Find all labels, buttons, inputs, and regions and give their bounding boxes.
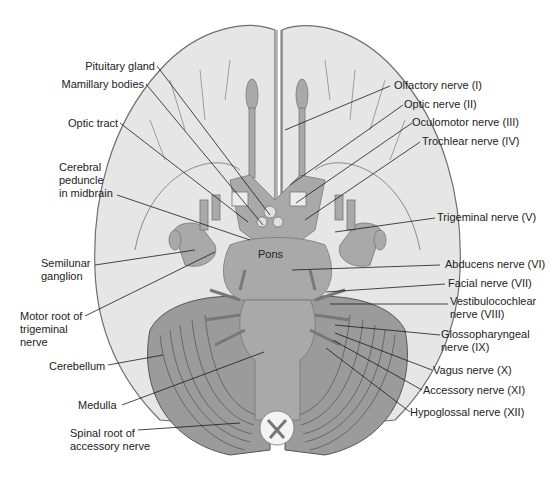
label-medulla: Medulla — [78, 399, 117, 412]
label-semilunar-ganglion: Semilunar ganglion — [41, 257, 91, 283]
label-hypoglossal-nerve: Hypoglossal nerve (XII) — [410, 406, 524, 419]
label-mamillary-bodies: Mamillary bodies — [40, 78, 144, 91]
label-cerebellum: Cerebellum — [49, 360, 105, 373]
label-optic-tract: Optic tract — [68, 117, 118, 130]
label-spinal-root-accessory: Spinal root of accessory nerve — [70, 427, 150, 453]
label-trigeminal-nerve: Trigeminal nerve (V) — [437, 211, 536, 224]
label-cerebral-peduncle: Cerebral peduncle in midbrain — [59, 161, 113, 200]
pons-label: Pons — [258, 248, 283, 260]
label-accessory-nerve: Accessory nerve (XI) — [423, 384, 525, 397]
label-optic-nerve: Optic nerve (II) — [404, 98, 477, 111]
label-oculomotor-nerve: Oculomotor nerve (III) — [412, 116, 519, 129]
spinal-cord-section — [260, 411, 294, 445]
label-glossopharyngeal-nerve: Glossopharyngeal nerve (IX) — [441, 328, 530, 354]
label-pituitary-gland: Pituitary gland — [60, 60, 155, 73]
label-trochlear-nerve: Trochlear nerve (IV) — [422, 135, 519, 148]
label-vagus-nerve: Vagus nerve (X) — [433, 364, 512, 377]
label-facial-nerve: Facial nerve (VII) — [448, 277, 532, 290]
label-abducens-nerve: Abducens nerve (VI) — [445, 258, 545, 271]
label-olfactory-nerve: Olfactory nerve (I) — [394, 79, 482, 92]
label-vestibulocochlear-nerve: Vestibulocochlear nerve (VIII) — [450, 295, 536, 321]
label-motor-root-trigeminal: Motor root of trigeminal nerve — [20, 310, 82, 349]
